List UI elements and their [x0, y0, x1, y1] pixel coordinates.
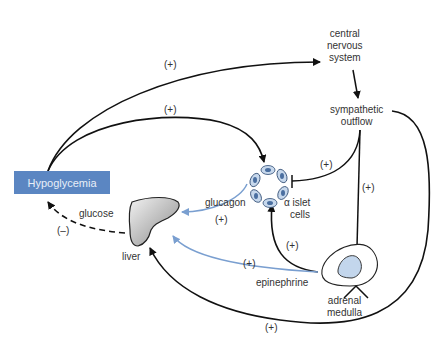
glucose-counterregulation-diagram: Hypoglycemia central nervous system symp… — [0, 0, 440, 344]
edge-label-symp-liver: (+) — [265, 322, 278, 334]
islet-label-line2: cells — [284, 209, 310, 221]
cns-label-line3: system — [327, 52, 363, 64]
symp-label-line2: outflow — [330, 116, 383, 128]
glucagon-label: glucagon — [205, 197, 246, 209]
arrow-symp-to-islet — [292, 130, 360, 181]
alpha-islet-label: α islet cells — [284, 197, 310, 221]
liver-icon — [129, 198, 179, 247]
adrenal-medulla-icon — [322, 244, 378, 286]
epinephrine-label: epinephrine — [256, 277, 308, 289]
cns-label: central nervous system — [327, 28, 363, 64]
cns-label-line2: nervous — [327, 40, 363, 52]
edge-label-adrenal-islet: (+) — [286, 240, 299, 252]
glucagon-sign: (+) — [215, 214, 228, 226]
glucose-label: glucose — [79, 208, 113, 220]
sympathetic-outflow-label: sympathetic outflow — [330, 104, 383, 128]
islet-label-line1: α islet — [284, 197, 310, 209]
symp-label-line1: sympathetic — [330, 104, 383, 116]
epinephrine-sign: (+) — [243, 258, 256, 270]
adrenal-medulla-label: adrenal medulla — [327, 295, 362, 319]
edge-label-symp-adrenal: (+) — [362, 182, 375, 194]
glucose-sign: (–) — [57, 225, 69, 237]
edge-label-symp-islet: (+) — [320, 159, 333, 171]
arrow-hypo-to-cns — [48, 62, 320, 171]
adrenal-label-line2: medulla — [327, 307, 362, 319]
liver-label: liver — [122, 251, 140, 263]
arrow-hypo-to-islet — [48, 117, 264, 171]
cns-label-line1: central — [327, 28, 363, 40]
hypoglycemia-box: Hypoglycemia — [14, 171, 110, 194]
arrow-cns-to-symp — [353, 70, 358, 98]
adrenal-label-line1: adrenal — [327, 295, 362, 307]
edge-label-hypo-islet: (+) — [164, 104, 177, 116]
edge-label-hypo-cns: (+) — [164, 59, 177, 71]
